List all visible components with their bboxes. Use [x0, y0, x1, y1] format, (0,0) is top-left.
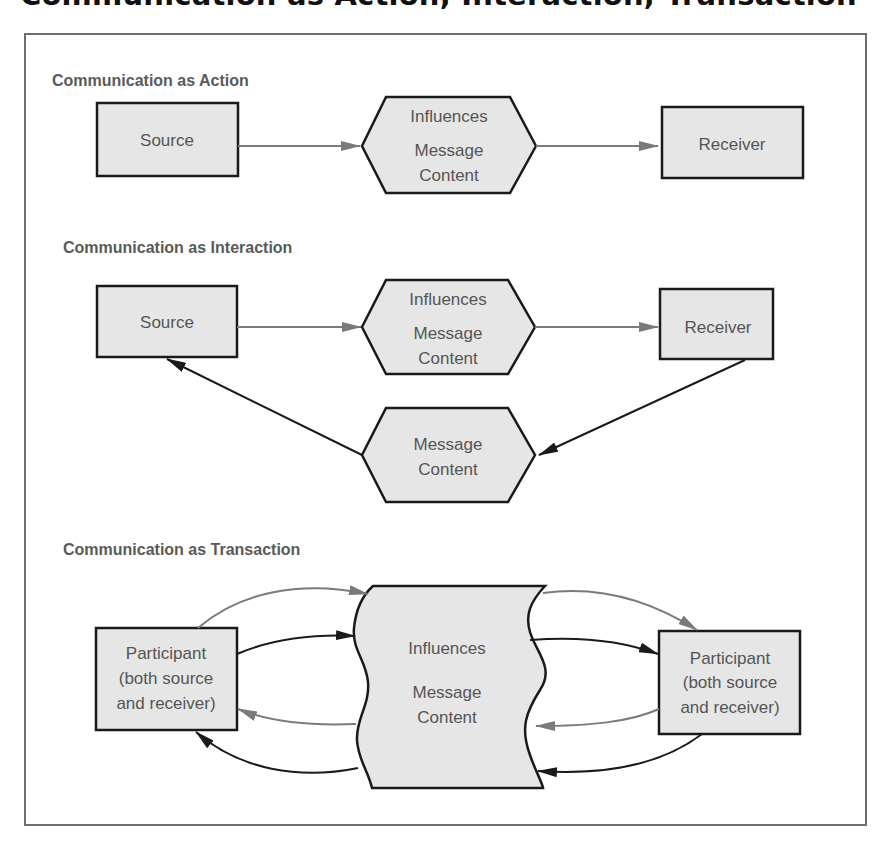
action-message-line3: Content [419, 166, 479, 185]
participant-left-line1: Participant [126, 644, 207, 663]
transaction-arrow-right-to-message-black [538, 734, 702, 772]
action-message-line1: Influences [410, 107, 488, 126]
action-message-hexagon: Influences Message Content [362, 97, 536, 193]
transaction-arrow-left-to-message-gray [198, 588, 368, 628]
interaction-message-hexagon: Influences Message Content [362, 280, 535, 374]
transaction-arrow-message-to-right-black [530, 639, 658, 654]
action-receiver-box: Receiver [662, 107, 803, 178]
participant-right-line3: and receiver) [680, 698, 779, 717]
transaction-message-line1: Influences [408, 639, 486, 658]
interaction-message-line3: Content [418, 349, 478, 368]
interaction-source-box: Source [97, 286, 237, 357]
transaction-message-line2: Message [413, 683, 482, 702]
interaction-source-label: Source [140, 313, 194, 332]
interaction-receiver-label: Receiver [684, 318, 751, 337]
transaction-arrow-message-to-right-gray [543, 591, 697, 630]
action-receiver-label: Receiver [698, 135, 765, 154]
action-message-line2: Message [415, 141, 484, 160]
interaction-feedback-hexagon: Message Content [362, 408, 535, 502]
interaction-arrow-receiver-to-feedback [539, 360, 745, 455]
participant-right-line2: (both source [683, 673, 778, 692]
interaction-feedback-line2: Content [418, 460, 478, 479]
interaction-receiver-box: Receiver [660, 289, 773, 359]
transaction-diagram: Participant (both source and receiver) I… [96, 586, 800, 788]
transaction-arrow-message-to-left-black [196, 732, 358, 773]
interaction-message-line1: Influences [409, 290, 487, 309]
transaction-message-wavy: Influences Message Content [354, 586, 546, 788]
interaction-arrow-feedback-to-source [167, 359, 362, 455]
diagram-canvas: Source Influences Message Content Receiv… [0, 0, 889, 855]
action-source-box: Source [97, 103, 238, 176]
interaction-feedback-line1: Message [414, 435, 483, 454]
transaction-participant-left-box: Participant (both source and receiver) [96, 628, 237, 730]
interaction-diagram: Source Influences Message Content Receiv… [97, 280, 773, 502]
transaction-arrow-right-to-message-gray [536, 709, 659, 726]
action-source-label: Source [140, 131, 194, 150]
action-diagram: Source Influences Message Content Receiv… [97, 97, 803, 193]
transaction-arrow-left-to-message-black [237, 636, 355, 654]
transaction-message-line3: Content [417, 708, 477, 727]
transaction-participant-right-box: Participant (both source and receiver) [659, 631, 800, 734]
participant-right-line1: Participant [690, 649, 771, 668]
transaction-arrow-message-to-left-gray [238, 709, 356, 724]
interaction-message-line2: Message [414, 324, 483, 343]
participant-left-line2: (both source [119, 669, 214, 688]
participant-left-line3: and receiver) [116, 694, 215, 713]
